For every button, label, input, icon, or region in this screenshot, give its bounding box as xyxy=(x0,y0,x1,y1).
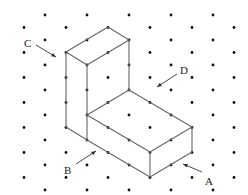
grid-dot xyxy=(44,89,47,92)
grid-dot xyxy=(233,176,236,179)
grid-dot xyxy=(233,76,236,79)
grid-dot xyxy=(149,126,152,129)
grid-dot xyxy=(23,176,26,179)
label-a: A xyxy=(205,176,213,187)
shape-edge xyxy=(150,127,192,152)
grid-dot xyxy=(170,64,173,67)
grid-dot xyxy=(212,64,215,67)
grid-dot xyxy=(149,26,152,29)
grid-dot xyxy=(86,164,89,167)
grid-dot xyxy=(191,101,194,104)
grid-dot xyxy=(107,176,110,179)
shape-edge xyxy=(87,40,129,65)
grid-dot xyxy=(128,189,131,192)
grid-dot xyxy=(44,114,47,117)
grid-dot xyxy=(86,14,89,17)
grid-dot xyxy=(212,89,215,92)
grid-dot xyxy=(191,51,194,54)
grid-dot xyxy=(23,76,26,79)
grid-dot xyxy=(191,26,194,29)
grid-dot xyxy=(212,39,215,42)
grid-dot xyxy=(149,76,152,79)
grid-dot xyxy=(191,176,194,179)
shape-edge xyxy=(66,27,108,52)
grid-dot xyxy=(128,114,131,117)
grid-dot xyxy=(233,26,236,29)
isometric-figure xyxy=(0,0,248,195)
label-arrows xyxy=(36,45,202,172)
label-b: B xyxy=(64,165,71,176)
grid-dot xyxy=(233,151,236,154)
shape-edge xyxy=(108,27,129,40)
grid-dot xyxy=(44,14,47,17)
grid-dot xyxy=(212,139,215,142)
grid-dot xyxy=(149,51,152,54)
grid-dot xyxy=(212,164,215,167)
label-c: C xyxy=(24,38,31,49)
shape-edge xyxy=(66,127,87,140)
grid-dot xyxy=(23,26,26,29)
shape-edges xyxy=(66,27,192,177)
grid-dot xyxy=(65,26,68,29)
grid-dot xyxy=(107,76,110,79)
grid-dot xyxy=(86,189,89,192)
shape-edge xyxy=(87,140,150,177)
grid-dot xyxy=(44,39,47,42)
label-d: D xyxy=(180,65,188,76)
arrowhead-icon xyxy=(157,83,162,87)
grid-dot xyxy=(23,101,26,104)
grid-dot xyxy=(65,176,68,179)
grid-dot xyxy=(212,14,215,17)
grid-dot xyxy=(65,151,68,154)
grid-dot xyxy=(44,139,47,142)
grid-dot xyxy=(23,126,26,129)
grid-dot xyxy=(233,126,236,129)
grid-dot xyxy=(170,14,173,17)
grid-dot xyxy=(233,101,236,104)
grid-dot xyxy=(233,51,236,54)
grid-dot xyxy=(212,189,215,192)
shape-edge xyxy=(87,90,129,115)
grid-dot xyxy=(23,51,26,54)
grid-dot xyxy=(212,114,215,117)
grid-dot xyxy=(44,164,47,167)
grid-dot xyxy=(170,39,173,42)
shape-edge xyxy=(66,52,87,65)
shape-edge xyxy=(129,90,192,127)
grid-dot xyxy=(128,14,131,17)
shape-edge xyxy=(87,115,150,152)
grid-dot xyxy=(44,189,47,192)
arrowhead-icon xyxy=(91,151,96,155)
grid-dot xyxy=(191,76,194,79)
grid-dot xyxy=(23,151,26,154)
grid-dot xyxy=(44,64,47,67)
grid-dot xyxy=(170,89,173,92)
grid-dot xyxy=(170,189,173,192)
